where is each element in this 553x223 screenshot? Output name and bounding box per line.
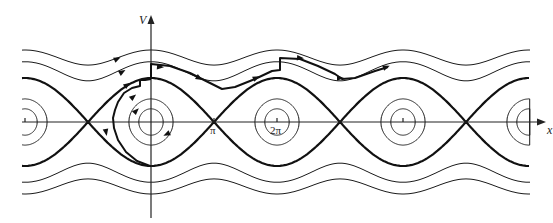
separatrix bbox=[22, 78, 529, 122]
open-orbit bbox=[22, 50, 530, 65]
arrow-head-icon bbox=[162, 130, 171, 138]
direction-arrows bbox=[103, 55, 391, 138]
x-axis-arrow-icon bbox=[537, 119, 546, 126]
arrow-head-icon bbox=[129, 92, 138, 101]
arrow-head-icon bbox=[337, 75, 344, 81]
x-axis-label: x bbox=[546, 123, 553, 137]
v-axis-arrow-icon bbox=[148, 15, 155, 24]
tick-label-pi: π bbox=[210, 124, 216, 136]
v-axis-label: V bbox=[139, 13, 148, 27]
arrow-head-icon bbox=[103, 129, 110, 137]
tick-label-2pi: 2π bbox=[270, 124, 282, 136]
open-orbit bbox=[22, 179, 530, 194]
arrow-head-icon bbox=[132, 106, 141, 115]
phase-portrait: x V π 2π bbox=[0, 0, 553, 223]
arrow-head-icon bbox=[113, 55, 122, 63]
